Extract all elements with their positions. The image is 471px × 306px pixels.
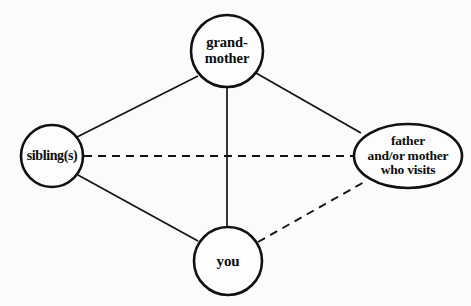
edge-siblings-grandmother <box>77 76 198 137</box>
node-grandmother-shape <box>191 15 263 87</box>
node-siblings-shape <box>21 125 83 187</box>
diagram-canvas-svg <box>0 0 471 306</box>
edge-layer <box>77 73 366 242</box>
edge-you-visiting-parent <box>258 181 366 242</box>
node-visiting-parent-shape <box>354 124 462 188</box>
relationship-diagram: grand- mother sibling(s) father and/or m… <box>0 0 471 306</box>
edge-siblings-you <box>78 175 198 241</box>
edge-grandmother-visiting-parent <box>256 73 361 133</box>
node-you-shape <box>194 227 262 295</box>
node-layer <box>21 15 462 295</box>
